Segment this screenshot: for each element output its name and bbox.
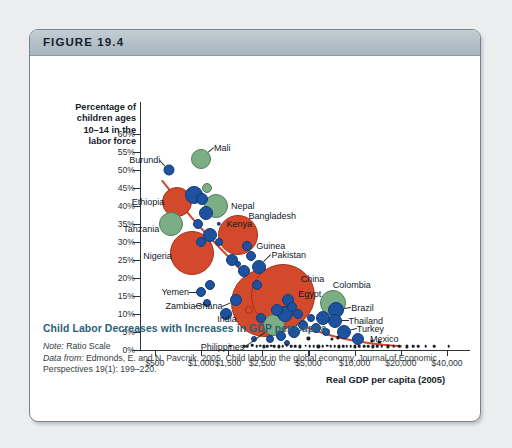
- country-label-nepal: Nepal: [231, 201, 255, 211]
- bubble-point[interactable]: [293, 309, 303, 319]
- bubble-point[interactable]: [307, 314, 315, 322]
- figure-number-label: FIGURE 19.4: [43, 36, 124, 48]
- label-leader-line: [189, 292, 196, 293]
- y-tick-label: 10%: [118, 309, 135, 319]
- figure-card: FIGURE 19.4 Percentage of children ages …: [29, 29, 481, 422]
- source-label: Data from:: [43, 353, 84, 363]
- country-label-mali: Mali: [214, 143, 231, 153]
- source-text: Edmonds, E. and N. Pavcnik. 2005. Child …: [43, 353, 437, 375]
- scatter-plot-area: 0%5%10%15%20%25%30%35%40%45%50%55%60% $5…: [140, 134, 462, 350]
- bubble-point[interactable]: [193, 219, 203, 229]
- country-label-bangladesh: Bangladesh: [248, 211, 296, 221]
- bubble-ghana[interactable]: [230, 294, 242, 306]
- y-axis-title: Percentage of children ages 10–14 in the…: [60, 102, 136, 148]
- y-tick-label: 50%: [118, 165, 135, 175]
- country-label-yemen: Yemen: [161, 287, 189, 297]
- note-text: Ratio Scale: [64, 341, 111, 351]
- caption-source-line: Data from: Edmonds, E. and N. Pavcnik. 2…: [43, 353, 469, 376]
- bubble-point[interactable]: [196, 193, 208, 205]
- bubble-point[interactable]: [205, 280, 215, 290]
- y-tick-label: 15%: [118, 291, 135, 301]
- country-label-burundi: Burundi: [129, 155, 160, 165]
- country-label-nigeria: Nigeria: [143, 251, 172, 261]
- bubble-point[interactable]: [245, 306, 253, 314]
- y-tick-label: 60%: [118, 129, 135, 139]
- country-label-colombia: Colombia: [333, 280, 371, 290]
- country-label-turkey: Turkey: [357, 324, 384, 334]
- bubble-point[interactable]: [199, 206, 213, 220]
- bubble-point[interactable]: [271, 304, 283, 316]
- caption-note-line: Note: Ratio Scale: [43, 341, 469, 353]
- bubble-yemen[interactable]: [196, 287, 206, 297]
- bubble-point[interactable]: [196, 237, 206, 247]
- country-label-egypt: Egypt: [298, 289, 321, 299]
- y-tick-label: 45%: [118, 183, 135, 193]
- country-label-ethiopia: Ethiopia: [132, 197, 165, 207]
- bubble-pakistan[interactable]: [252, 260, 266, 274]
- y-tick-label: 25%: [118, 255, 135, 265]
- y-tick-label: 30%: [118, 237, 135, 247]
- bubble-tanzania[interactable]: [159, 212, 183, 236]
- bubble-point[interactable]: [246, 251, 256, 261]
- country-label-china: China: [301, 274, 325, 284]
- bubble-point[interactable]: [235, 261, 241, 267]
- bubble-burundi[interactable]: [164, 165, 175, 176]
- caption-note: Note: Ratio Scale Data from: Edmonds, E.…: [43, 341, 469, 376]
- country-label-zambia: Zambia: [165, 301, 195, 311]
- caption-title: Child Labor Decreases with Increases in …: [43, 323, 327, 334]
- bubble-guinea[interactable]: [242, 241, 252, 251]
- country-label-brazil: Brazil: [351, 303, 374, 313]
- bubble-point[interactable]: [256, 313, 266, 323]
- bubble-point[interactable]: [215, 238, 223, 246]
- bubble-point[interactable]: [202, 183, 212, 193]
- y-tick-label: 20%: [118, 273, 135, 283]
- country-label-pakistan: Pakistan: [271, 250, 306, 260]
- note-label: Note:: [43, 341, 64, 351]
- country-label-tanzania: Tanzania: [123, 224, 159, 234]
- bubble-point[interactable]: [238, 265, 250, 277]
- country-label-guinea: Guinea: [256, 241, 285, 251]
- bubble-point[interactable]: [252, 280, 262, 290]
